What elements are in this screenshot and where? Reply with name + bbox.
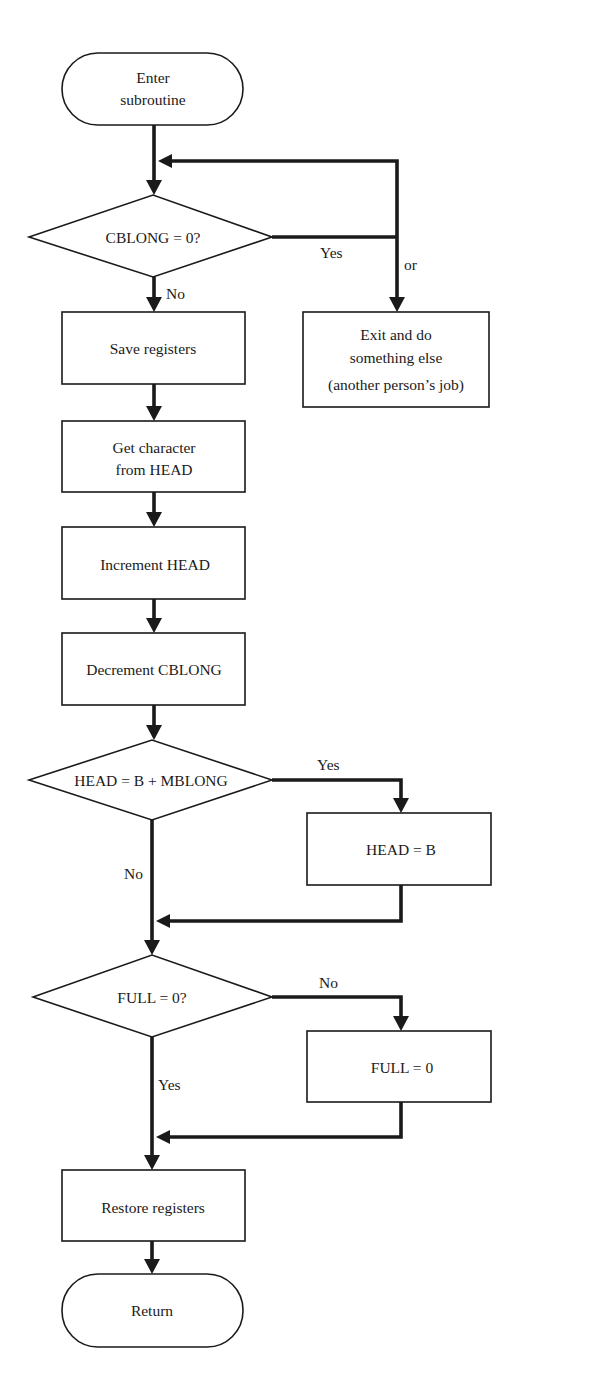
node-save-registers: Save registers	[62, 312, 245, 384]
node-exit-box: Exit and do something else (another pers…	[303, 312, 489, 407]
node-restore-registers-label: Restore registers	[101, 1199, 205, 1216]
node-decision-cblong: CBLONG = 0?	[29, 195, 272, 277]
node-decision-full-label: FULL = 0?	[117, 989, 186, 1006]
edge-label-cblong-no: No	[166, 285, 185, 302]
node-save-registers-label: Save registers	[110, 340, 197, 357]
node-exit-line3: (another person’s job)	[328, 376, 464, 394]
arrow-down-icon	[146, 512, 162, 527]
edge-full-no	[272, 997, 401, 1017]
edge-label-cblong-or: or	[404, 256, 418, 273]
node-decision-head: HEAD = B + MBLONG	[29, 740, 272, 820]
arrow-left-icon	[156, 1130, 170, 1144]
node-exit-line1: Exit and do	[360, 326, 432, 343]
arrow-left-icon	[156, 914, 170, 928]
arrow-down-icon	[146, 297, 162, 312]
node-get-character-line1: Get character	[112, 439, 196, 456]
arrow-down-icon	[146, 180, 162, 195]
flowchart-canvas: Enter subroutine CBLONG = 0? Yes or No E…	[0, 0, 615, 1392]
edge-label-head-yes: Yes	[317, 756, 340, 773]
arrow-down-icon	[144, 1259, 160, 1274]
node-increment-head: Increment HEAD	[62, 527, 245, 599]
node-return-label: Return	[131, 1302, 173, 1319]
arrow-left-icon	[158, 154, 172, 168]
node-decision-cblong-label: CBLONG = 0?	[106, 229, 201, 246]
edge-headcheck-yes	[272, 780, 401, 799]
node-increment-head-label: Increment HEAD	[100, 556, 210, 573]
edge-label-cblong-yes: Yes	[320, 244, 343, 261]
arrow-down-icon	[389, 297, 405, 312]
node-get-character-line2: from HEAD	[115, 461, 192, 478]
node-restore-registers: Restore registers	[62, 1170, 245, 1241]
edge-label-head-no: No	[124, 865, 143, 882]
edge-full0-merge	[170, 1102, 401, 1137]
node-start: Enter subroutine	[62, 53, 243, 125]
edge-headb-merge	[170, 885, 401, 921]
terminal-shape	[62, 53, 243, 125]
node-exit-line2: something else	[350, 349, 443, 366]
arrow-down-icon	[146, 406, 162, 421]
edge-label-full-yes: Yes	[158, 1076, 181, 1093]
node-head-equals-b: HEAD = B	[307, 813, 491, 885]
edge-label-full-no: No	[319, 974, 338, 991]
arrow-down-icon	[393, 798, 409, 813]
node-get-character: Get character from HEAD	[62, 421, 245, 492]
node-full-equals-0-label: FULL = 0	[371, 1059, 434, 1076]
node-full-equals-0: FULL = 0	[307, 1031, 491, 1102]
arrow-down-icon	[393, 1016, 409, 1031]
process-box	[62, 421, 245, 492]
node-return: Return	[62, 1274, 243, 1347]
node-head-equals-b-label: HEAD = B	[366, 841, 436, 858]
node-start-line2: subroutine	[120, 91, 186, 108]
node-decrement-cblong: Decrement CBLONG	[62, 633, 245, 705]
arrow-down-icon	[146, 725, 162, 740]
node-decision-full: FULL = 0?	[33, 955, 272, 1037]
node-decrement-cblong-label: Decrement CBLONG	[86, 661, 222, 678]
arrow-down-icon	[144, 1155, 160, 1170]
node-start-line1: Enter	[136, 69, 170, 86]
arrow-down-icon	[146, 618, 162, 633]
arrow-down-icon	[144, 940, 160, 955]
node-decision-head-label: HEAD = B + MBLONG	[74, 772, 228, 789]
